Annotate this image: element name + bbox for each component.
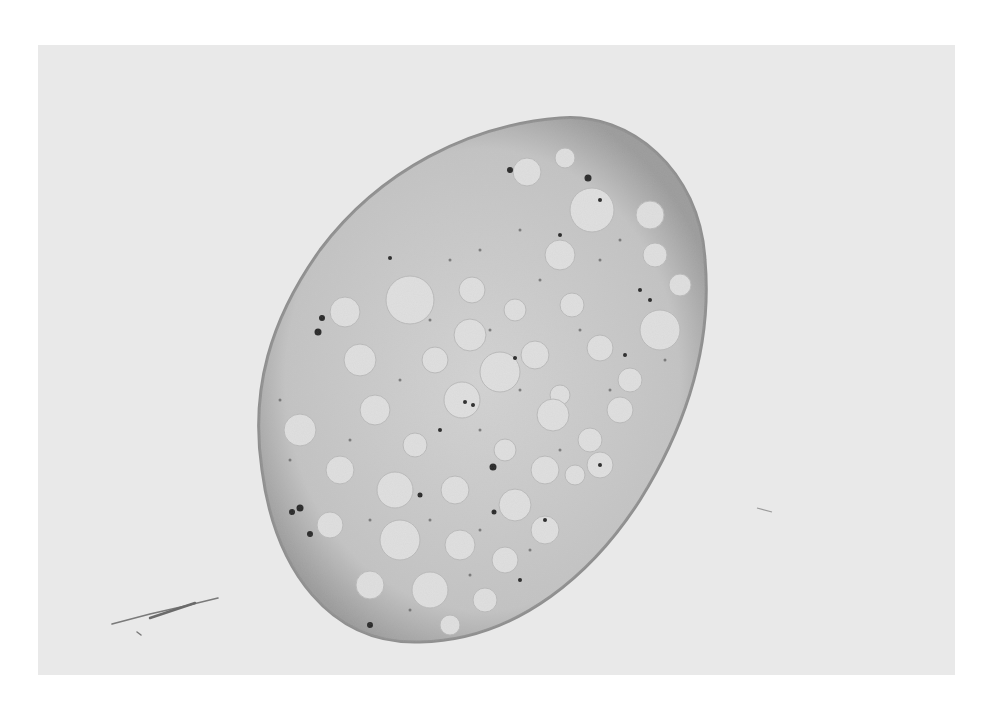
micrograph <box>0 0 981 710</box>
fiber-debris <box>112 598 218 635</box>
streak-artifact <box>757 508 772 512</box>
cell-specimen <box>250 110 720 650</box>
